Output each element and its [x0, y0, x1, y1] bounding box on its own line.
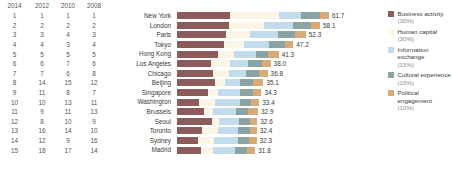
rank-cell: 6 [55, 70, 81, 77]
bar-segment-human-capital [226, 31, 249, 38]
bar-segment-business-activity [177, 60, 211, 67]
legend-weight: (30%) [398, 35, 438, 42]
bar-segment-information-exchange [234, 51, 255, 58]
chart-legend: Business activity(30%)Human capital(30%)… [388, 10, 452, 115]
rank-cell: 3 [81, 31, 107, 38]
bar-segment-information-exchange [214, 137, 238, 144]
rank-column-header-2008: 2008 [81, 2, 107, 9]
bar-total-value: 32.4 [260, 127, 272, 134]
legend-item[interactable]: Information exchange(15%) [388, 46, 452, 68]
bar-segment-information-exchange [229, 70, 247, 77]
bar-segment-cultural-experience [240, 79, 253, 86]
bar-segment-political-engagement [262, 60, 270, 67]
bar-segment-human-capital [198, 137, 214, 144]
bar-segment-business-activity [177, 89, 208, 96]
bar-segment-political-engagement [311, 22, 320, 29]
rank-cell: 9 [81, 118, 107, 125]
rank-cell: 9 [55, 137, 81, 144]
bar-segment-cultural-experience [238, 127, 249, 134]
legend-item[interactable]: Human capital(30%) [388, 28, 452, 43]
bar-segment-cultural-experience [236, 108, 248, 115]
rank-row: 4434 [0, 40, 112, 50]
legend-label: Business activity [398, 10, 444, 17]
bar-segment-cultural-experience [240, 89, 253, 96]
rank-cell: 14 [55, 127, 81, 134]
legend-weight: (10%) [398, 104, 452, 111]
city-label: Brussels [112, 107, 175, 117]
legend-swatch-information-exchange [388, 47, 394, 53]
city-label: Beijing [112, 78, 175, 88]
stacked-bar [177, 70, 268, 77]
rank-cell: 2 [29, 22, 55, 29]
bar-segment-human-capital [215, 79, 225, 86]
bar-segment-political-engagement [285, 41, 293, 48]
rank-column-header-2012: 2012 [29, 2, 55, 9]
stacked-bar [177, 147, 255, 154]
legend-swatch-business-activity [388, 11, 394, 17]
legend-item[interactable]: Cultural experience(15%) [388, 71, 452, 86]
rank-cell: 13 [0, 127, 29, 134]
bar-row: 32.6 [177, 117, 452, 127]
rank-cell: 8 [29, 118, 55, 125]
bar-segment-political-engagement [295, 31, 305, 38]
rank-row: 3343 [0, 30, 112, 40]
bar-total-value: 58.1 [323, 22, 335, 29]
legend-item[interactable]: Political engagement(10%) [388, 89, 452, 111]
bar-segment-human-capital [201, 147, 214, 154]
rank-cell: 6 [29, 60, 55, 67]
bar-segment-political-engagement [251, 99, 259, 106]
rank-row: 1412916 [0, 136, 112, 146]
rank-cell: 15 [0, 147, 29, 154]
rank-row: 91187 [0, 88, 112, 98]
stacked-bar [177, 89, 261, 96]
bar-segment-information-exchange [244, 41, 269, 48]
city-label: Paris [112, 30, 175, 40]
bar-segment-human-capital [229, 22, 264, 29]
rank-table-header-row: 2014201220102008 [0, 0, 112, 11]
rank-cell: 10 [0, 99, 29, 106]
bar-segment-political-engagement [249, 137, 257, 144]
legend-swatch-cultural-experience [388, 72, 394, 78]
rank-cell: 10 [81, 127, 107, 134]
stacked-bar [177, 12, 329, 19]
legend-text: Human capital(30%) [398, 28, 438, 43]
bar-segment-cultural-experience [238, 137, 249, 144]
rank-cell: 3 [0, 31, 29, 38]
rank-column-header-2010: 2010 [55, 2, 81, 9]
bar-segment-political-engagement [253, 89, 262, 96]
rank-cell: 7 [29, 70, 55, 77]
bar-segment-business-activity [177, 70, 213, 77]
bar-segment-political-engagement [320, 12, 329, 19]
bar-segment-human-capital [213, 70, 228, 77]
city-label-column: New YorkLondonParisTokyoHong KongLos Ang… [112, 11, 175, 155]
bar-segment-human-capital [204, 108, 213, 115]
stacked-bar [177, 41, 293, 48]
city-label: Los Angeles [112, 59, 175, 69]
bar-segment-information-exchange [225, 79, 240, 86]
bar-segment-cultural-experience [269, 41, 285, 48]
city-label: Washington [112, 97, 175, 107]
rank-cell: 13 [55, 99, 81, 106]
bar-total-value: 47.2 [296, 41, 308, 48]
bar-segment-information-exchange [230, 60, 248, 67]
legend-swatch-human-capital [388, 29, 394, 35]
legend-text: Information exchange(15%) [398, 46, 452, 68]
bar-segment-cultural-experience [293, 22, 311, 29]
city-label: Sydney [112, 136, 175, 146]
legend-label: Human capital [398, 28, 438, 35]
bar-segment-information-exchange [213, 147, 234, 154]
bar-segment-business-activity [177, 12, 230, 19]
city-label: New York [112, 11, 175, 21]
stacked-bar [177, 31, 306, 38]
legend-item[interactable]: Business activity(30%) [388, 10, 452, 25]
rank-cell: 10 [29, 99, 55, 106]
rank-row: 2222 [0, 21, 112, 31]
bar-segment-information-exchange [213, 108, 236, 115]
rank-cell: 12 [29, 137, 55, 144]
bar-segment-business-activity [177, 79, 215, 86]
bar-segment-human-capital [230, 12, 279, 19]
bar-total-value: 32.9 [261, 108, 273, 115]
bar-segment-business-activity [177, 99, 199, 106]
bar-segment-business-activity [177, 137, 198, 144]
rank-cell: 1 [0, 12, 29, 19]
